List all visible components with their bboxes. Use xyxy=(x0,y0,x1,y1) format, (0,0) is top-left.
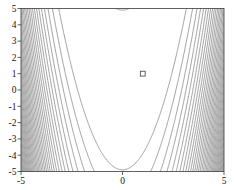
y-tick-label: 5 xyxy=(12,4,17,14)
y-axis-tick-labels: 543210-1-2-3-4-5 xyxy=(9,4,17,177)
y-tick-label: 4 xyxy=(12,20,17,30)
y-tick-label: 2 xyxy=(12,53,17,63)
y-tick-label: -4 xyxy=(9,151,17,161)
contour-lines xyxy=(20,0,225,190)
x-tick-label: -5 xyxy=(17,176,25,186)
x-axis-tick-labels: -505 xyxy=(17,176,227,186)
plot-border xyxy=(21,9,224,172)
y-tick-label: -5 xyxy=(9,167,17,177)
minimum-marker xyxy=(140,71,145,76)
y-tick-label: -1 xyxy=(9,102,17,112)
contour-plot-figure: -505543210-1-2-3-4-5 xyxy=(0,0,234,190)
y-tick-label: -3 xyxy=(9,134,17,144)
y-tick-label: 1 xyxy=(12,69,17,79)
x-tick-label: 0 xyxy=(120,176,125,186)
y-tick-label: -2 xyxy=(9,118,17,128)
y-tick-label: 0 xyxy=(12,85,17,95)
y-tick-label: 3 xyxy=(12,36,17,46)
x-tick-label: 5 xyxy=(222,176,227,186)
contour-plot: -505543210-1-2-3-4-5 xyxy=(0,0,234,190)
